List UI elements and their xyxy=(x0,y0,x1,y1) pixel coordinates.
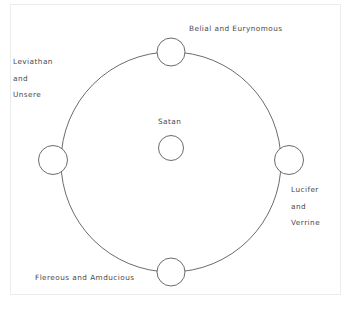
node-label-left-line2: and xyxy=(13,71,53,88)
node-label-bottom: Flereous and Amducious xyxy=(35,270,135,287)
center-node-circle xyxy=(159,136,184,161)
center-node-label-text: Satan xyxy=(158,114,181,131)
page-canvas: Belial and Eurynomous Leviathan and Unse… xyxy=(0,0,359,312)
node-label-right: Lucifer and Verrine xyxy=(291,182,320,232)
circular-diagram xyxy=(0,0,359,312)
node-circle-left xyxy=(39,146,68,175)
node-label-bottom-text: Flereous and Amducious xyxy=(35,270,135,287)
node-label-left: Leviathan and Unsere xyxy=(13,54,53,104)
node-circle-top xyxy=(157,38,185,66)
node-label-right-line3: Verrine xyxy=(291,215,320,232)
center-node-label: Satan xyxy=(158,114,181,131)
node-label-top: Belial and Eurynomous xyxy=(189,21,283,38)
node-label-left-line3: Unsere xyxy=(13,87,53,104)
node-circle-right xyxy=(275,146,304,175)
outer-circle xyxy=(61,52,281,272)
node-label-top-text: Belial and Eurynomous xyxy=(189,21,283,38)
node-label-right-line2: and xyxy=(291,199,320,216)
node-label-left-line1: Leviathan xyxy=(13,54,53,71)
node-circle-bottom xyxy=(157,258,185,286)
node-label-right-line1: Lucifer xyxy=(291,182,320,199)
